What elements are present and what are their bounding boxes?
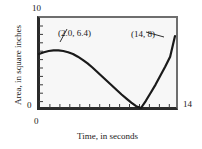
y-axis-max-tick-label: 10 <box>32 3 41 13</box>
chart-figure: 10 0 0 14 Area, in square inches Time, i… <box>0 0 202 149</box>
y-axis-title: Area, in square inches <box>13 9 23 121</box>
annotation-local-maximum: (2.0, 6.4) <box>58 28 91 38</box>
y-axis-min-tick-label: 0 <box>27 100 32 110</box>
x-axis-ticks <box>50 104 169 108</box>
y-axis-ticks <box>39 26 43 102</box>
annotation-endpoint: (14, 8) <box>131 29 155 39</box>
data-curve <box>39 36 175 108</box>
x-axis-title: Time, in seconds <box>37 131 178 141</box>
x-axis-max-tick-label: 14 <box>183 99 192 109</box>
x-axis-min-tick-label: 0 <box>34 116 39 126</box>
